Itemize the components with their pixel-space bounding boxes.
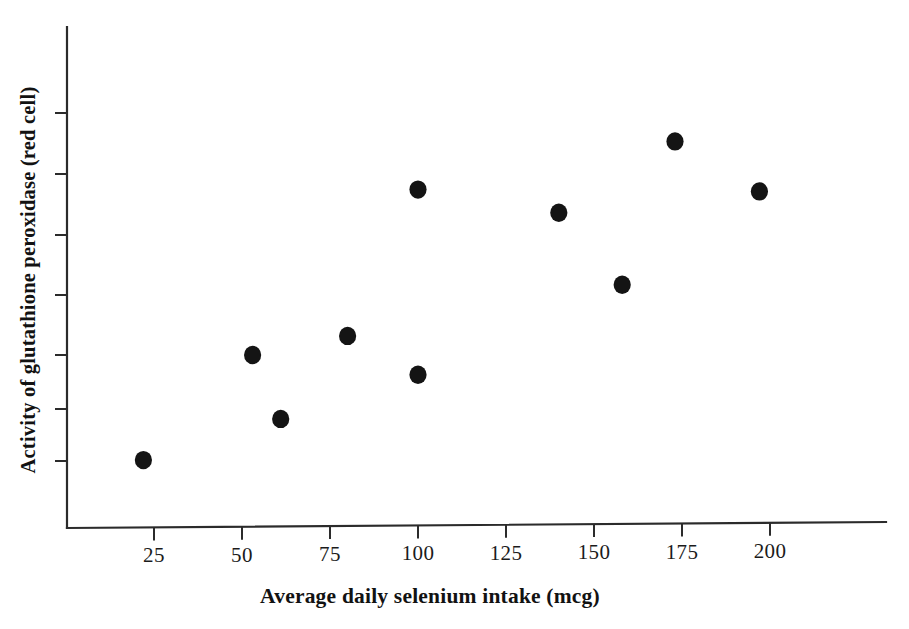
x-axis-title: Average daily selenium intake (mcg) — [0, 584, 860, 609]
y-axis-title-container: Activity of glutathione peroxidase (red … — [8, 0, 48, 560]
data-point — [550, 204, 567, 222]
x-axis-tick-label: 150 — [578, 540, 611, 565]
x-axis-tick-label: 100 — [402, 541, 435, 566]
data-point — [135, 451, 152, 469]
data-point — [339, 327, 356, 345]
scatter-plot-figure: 255075100125150175200 Average daily sele… — [0, 0, 909, 629]
data-point — [244, 346, 261, 364]
y-axis-ticks — [55, 113, 67, 461]
data-point — [409, 366, 426, 384]
plot-canvas — [0, 0, 909, 629]
x-axis-tick-label: 175 — [666, 540, 699, 565]
y-axis-title: Activity of glutathione peroxidase (red … — [17, 87, 40, 474]
x-axis-tick-label: 50 — [231, 543, 253, 568]
data-point-group — [135, 132, 768, 469]
x-axis-tick-label: 125 — [490, 541, 523, 566]
data-point — [409, 180, 426, 198]
x-axis-tick-label: 25 — [143, 543, 165, 568]
x-axis-tick-label: 200 — [754, 539, 787, 564]
x-axis-tick-label: 75 — [319, 542, 341, 567]
data-point — [614, 276, 631, 294]
x-axis-line — [67, 522, 886, 528]
data-point — [751, 182, 768, 200]
data-point — [272, 410, 289, 428]
data-point — [666, 132, 683, 150]
